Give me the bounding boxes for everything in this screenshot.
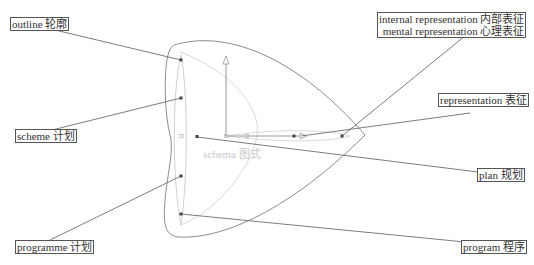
leader-scheme	[52, 98, 181, 130]
node-outline	[180, 59, 183, 62]
label-mental-representation: mental representation 心理表征	[379, 25, 524, 37]
vertical-arrowhead-icon	[223, 56, 229, 64]
label-internal-mental-representation: internal representation 内部表征 mental repr…	[377, 12, 526, 38]
schema-label: schema 图式	[203, 145, 261, 161]
label-program: program 程序	[461, 240, 527, 254]
node-scheme	[180, 97, 183, 100]
vertical-lens-shape	[174, 55, 186, 225]
leader-internal-representation	[342, 36, 465, 136]
label-representation: representation 表征	[438, 93, 529, 107]
leader-outline	[55, 30, 181, 60]
leader-programme	[50, 176, 181, 240]
label-programme: programme 计划	[15, 240, 94, 254]
leader-representation	[301, 113, 470, 136]
node-program	[180, 213, 183, 216]
node-plan	[196, 135, 199, 138]
leader-program	[181, 214, 465, 242]
node-representation	[293, 135, 296, 138]
node-internal-representation	[341, 135, 344, 138]
node-programme	[180, 175, 183, 178]
label-outline: outline 轮廓	[10, 17, 69, 31]
label-scheme: scheme 计划	[15, 129, 77, 143]
concept-diagram	[0, 0, 534, 265]
node-center-left	[180, 135, 183, 138]
label-internal-representation: internal representation 内部表征	[379, 13, 524, 25]
label-plan: plan 规划	[477, 168, 525, 182]
